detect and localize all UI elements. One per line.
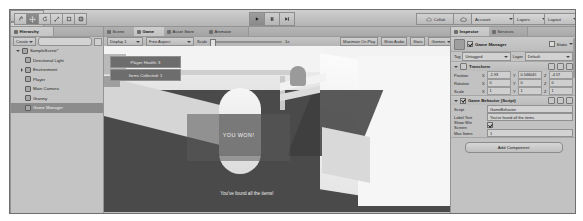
tab-hierarchy[interactable]: Hierarchy: [11, 27, 54, 36]
axis-y-label: Y: [513, 81, 517, 86]
axis-y-input[interactable]: 0.546045: [518, 71, 542, 79]
hierarchy-search-input[interactable]: [38, 37, 92, 46]
axis-z-input[interactable]: 1: [549, 87, 573, 95]
axis-x-input[interactable]: -1.93: [487, 71, 511, 79]
axis-y: Y0.546045: [513, 71, 542, 79]
game-behavior-header[interactable]: Game Behavior (Script): [451, 96, 576, 105]
axis-y-input[interactable]: 1: [518, 87, 542, 95]
collab-button[interactable]: Collab: [416, 13, 455, 25]
right-wall-far: [358, 56, 451, 206]
rect-tool-button[interactable]: [62, 13, 74, 25]
hierarchy-list[interactable]: SampleScene*Directional LightEnvironment…: [11, 46, 104, 213]
script-property-input[interactable]: 1: [487, 129, 573, 138]
maximize-on-play-toggle[interactable]: Maximize On Play: [340, 37, 378, 46]
play-button[interactable]: [249, 12, 264, 26]
tab-label: Game: [143, 29, 155, 34]
hierarchy-item[interactable]: Directional Light: [11, 56, 104, 66]
mute-audio-toggle[interactable]: Mute Audio: [381, 37, 407, 46]
scene-icon: [107, 30, 111, 34]
hierarchy-item[interactable]: Game Manager: [11, 103, 104, 113]
win-title: YOU WON!: [187, 132, 290, 138]
transform-row-label: Scale: [454, 89, 480, 94]
script-enabled-checkbox[interactable]: [460, 98, 466, 104]
help-icon[interactable]: [557, 97, 564, 104]
script-properties: Label TextYou've found all the itemsShow…: [451, 113, 576, 137]
pause-button[interactable]: [264, 12, 279, 26]
hierarchy-item[interactable]: Player: [11, 75, 104, 85]
scene-game-tabstrip: SceneGameAsset StoreAnimator: [104, 27, 451, 37]
preset-icon[interactable]: [548, 97, 555, 104]
layout-dropdown[interactable]: Layout: [544, 13, 576, 25]
chevron-down-icon[interactable]: [16, 50, 20, 52]
tab-services[interactable]: Services: [489, 27, 528, 36]
add-component-label: Add Component: [498, 145, 530, 150]
display-dropdown[interactable]: Display 1: [107, 37, 143, 46]
transform-title: Transform: [469, 64, 490, 69]
script-label: Script: [454, 107, 484, 112]
tab-animator[interactable]: Animator: [206, 27, 249, 36]
scale-tool-button[interactable]: [50, 13, 62, 25]
layer-label: Layer: [513, 54, 523, 59]
game-render-surface[interactable]: Player Health: 3 Items Collected: 1 YOU …: [104, 46, 451, 212]
chevron-down-icon: [566, 56, 570, 58]
script-property-input[interactable]: You've found all the items: [487, 113, 573, 122]
axis-z: Z-4.57: [544, 71, 573, 79]
chevron-right-icon[interactable]: [21, 68, 23, 72]
hierarchy-tabstrip: Hierarchy: [11, 27, 104, 37]
transform-icon: [460, 63, 467, 70]
tag-dropdown[interactable]: Untagged: [462, 52, 510, 61]
gameobject-icon: [25, 67, 31, 73]
axis-x-input[interactable]: 1: [487, 87, 511, 95]
scale-label: Scale: [197, 39, 207, 44]
stats-label: Stats: [413, 39, 422, 44]
transform-header[interactable]: Transform: [451, 62, 576, 71]
step-button[interactable]: [279, 12, 295, 26]
script-property-checkbox[interactable]: [487, 122, 493, 128]
add-component-button[interactable]: Add Component: [465, 142, 563, 153]
hierarchy-options-icon[interactable]: [94, 38, 102, 46]
settings-icon[interactable]: [566, 97, 573, 104]
static-checkbox[interactable]: [549, 41, 555, 47]
gameobject-icon: [25, 57, 31, 63]
hierarchy-item-label: Directional Light: [33, 58, 64, 63]
inspector-scrollbar[interactable]: [573, 38, 576, 78]
hud-items-collected-button[interactable]: Items Collected: 1: [110, 69, 181, 81]
chevron-down-icon[interactable]: [454, 66, 458, 68]
axis-x: X1: [482, 87, 511, 95]
transform-row: RotationX0Y0Z0: [451, 79, 576, 87]
axis-x-label: X: [482, 81, 486, 86]
rotate-tool-button[interactable]: [38, 13, 50, 25]
hand-tool-button[interactable]: [14, 13, 26, 25]
main-toolbar: Pivot Local Collab Account: [10, 10, 575, 27]
axis-y-input[interactable]: 0: [518, 79, 542, 87]
create-button[interactable]: Create: [13, 37, 36, 46]
help-icon[interactable]: [557, 63, 564, 70]
axis-x-label: X: [482, 89, 486, 94]
account-dropdown[interactable]: Account: [471, 13, 517, 25]
hierarchy-panel: Hierarchy Create SampleScene*Directional…: [10, 26, 105, 214]
hierarchy-item[interactable]: Main Camera: [11, 84, 104, 94]
hierarchy-item[interactable]: Granny: [11, 94, 104, 104]
move-tool-button[interactable]: [26, 13, 38, 25]
layer-dropdown[interactable]: Default: [525, 52, 573, 61]
object-enabled-checkbox[interactable]: [467, 41, 473, 47]
script-value: GameBehavior: [490, 107, 516, 112]
scale-slider[interactable]: [210, 38, 282, 45]
component-game-behavior: Game Behavior (Script) Script GameBehavi…: [451, 96, 576, 138]
aspect-dropdown[interactable]: Free Aspect: [146, 37, 194, 46]
axis-y: Y1: [513, 87, 542, 95]
transform-tool-button[interactable]: [74, 13, 87, 25]
stats-toggle[interactable]: Stats: [410, 37, 425, 46]
settings-icon[interactable]: [566, 63, 573, 70]
services-icon: [492, 30, 496, 34]
axis-x-input[interactable]: 0: [487, 79, 511, 87]
hierarchy-item[interactable]: SampleScene*: [11, 46, 104, 56]
hud-player-health-button[interactable]: Player Health: 3: [110, 56, 181, 68]
hierarchy-item[interactable]: Environment: [11, 65, 104, 75]
axis-z-input[interactable]: -4.57: [549, 71, 573, 79]
axis-z-input[interactable]: 0: [549, 79, 573, 87]
transform-row-label: Rotation: [454, 81, 480, 86]
chevron-down-icon[interactable]: [454, 100, 458, 102]
tab-hierarchy-label: Hierarchy: [20, 29, 39, 34]
preset-icon[interactable]: [548, 63, 555, 70]
